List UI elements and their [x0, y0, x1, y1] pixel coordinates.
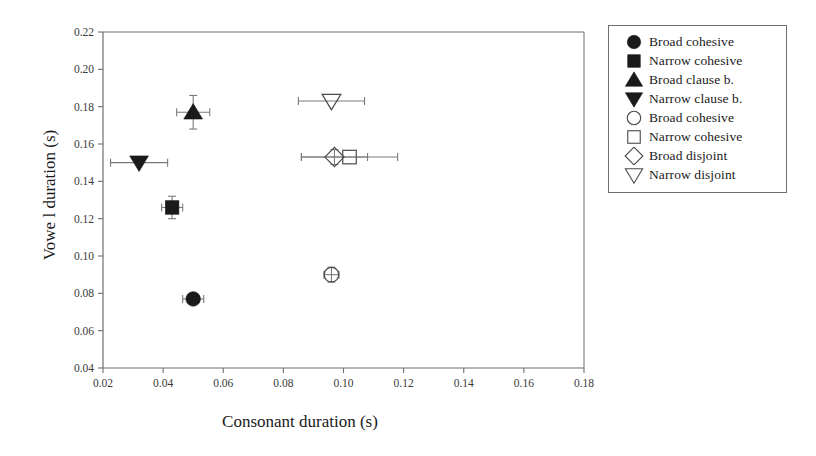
y-tick-label: 0.16: [74, 138, 94, 150]
data-point: [183, 292, 204, 307]
data-point: [301, 147, 367, 166]
x-tick-label: 0.12: [394, 377, 414, 389]
data-point: [162, 196, 183, 218]
legend-item-label: Broad clause b.: [649, 72, 734, 88]
data-point: [111, 156, 168, 172]
legend-item: Narrow cohesive: [609, 51, 786, 70]
y-tick-label: 0.22: [74, 26, 94, 38]
marker-diamond: [625, 147, 643, 165]
x-tick-label: 0.06: [213, 377, 233, 389]
marker-square: [165, 201, 179, 215]
legend-item-label: Broad cohesive: [649, 110, 734, 126]
marker-square: [628, 54, 640, 66]
marker-triangle-up: [184, 103, 203, 119]
legend-symbol-triangle-down-open-icon: [619, 166, 649, 184]
legend-item-label: Narrow disjoint: [649, 167, 736, 183]
y-tick-label: 0.06: [74, 325, 94, 337]
y-tick-label: 0.18: [74, 101, 94, 113]
marker-square: [628, 130, 640, 142]
x-axis-title: Consonant duration (s): [0, 412, 600, 432]
x-tick-label: 0.18: [574, 377, 594, 389]
y-tick-label: 0.08: [74, 287, 94, 299]
legend-symbol-square-open-icon: [619, 128, 649, 146]
legend-item: Broad clause b.: [609, 70, 786, 89]
y-tick-label: 0.14: [74, 175, 94, 187]
legend-item: Narrow disjoint: [609, 165, 786, 184]
marker-triangle-up: [625, 71, 642, 85]
y-tick-label: 0.12: [74, 213, 94, 225]
x-tick-label: 0.02: [93, 377, 113, 389]
legend-item: Broad disjoint: [609, 146, 786, 165]
x-tick-label: 0.08: [273, 377, 293, 389]
legend-item: Narrow cohesive: [609, 127, 786, 146]
legend-item-label: Narrow cohesive: [649, 129, 742, 145]
marker-triangle-down: [625, 92, 642, 106]
legend-symbol-diamond-open-icon: [619, 147, 649, 165]
marker-circle: [186, 292, 201, 307]
legend-symbol-circle-filled-icon: [619, 33, 649, 51]
legend-symbol-triangle-up-filled-icon: [619, 71, 649, 89]
scatter-plot-figure: 0.020.040.060.080.100.120.140.160.180.04…: [0, 0, 816, 456]
legend-item-label: Narrow cohesive: [649, 53, 742, 69]
legend-item-label: Narrow clause b.: [649, 91, 742, 107]
x-tick-label: 0.14: [454, 377, 474, 389]
legend: Broad cohesiveNarrow cohesiveBroad claus…: [608, 25, 787, 193]
legend-item-label: Broad disjoint: [649, 148, 727, 164]
y-tick-label: 0.04: [74, 362, 94, 374]
marker-triangle-down: [130, 156, 149, 172]
data-point: [177, 95, 210, 129]
legend-item: Broad cohesive: [609, 32, 786, 51]
marker-circle: [627, 35, 640, 48]
legend-symbol-circle-open-icon: [619, 109, 649, 127]
marker-triangle-down: [322, 94, 341, 110]
legend-item: Broad cohesive: [609, 108, 786, 127]
data-point: [324, 267, 339, 282]
x-tick-label: 0.16: [514, 377, 534, 389]
y-tick-label: 0.10: [74, 250, 94, 262]
legend-item: Narrow clause b.: [609, 89, 786, 108]
y-tick-label: 0.20: [74, 63, 94, 75]
data-point: [298, 94, 364, 110]
marker-circle: [627, 111, 640, 124]
legend-symbol-triangle-down-filled-icon: [619, 90, 649, 108]
legend-symbol-square-filled-icon: [619, 52, 649, 70]
x-tick-label: 0.10: [333, 377, 353, 389]
marker-triangle-down: [625, 168, 642, 182]
legend-item-label: Broad cohesive: [649, 34, 734, 50]
y-axis-title: Vowe l duration (s): [40, 85, 60, 305]
x-tick-label: 0.04: [153, 377, 173, 389]
